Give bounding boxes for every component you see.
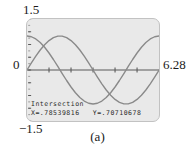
figure-caption: (a) <box>0 129 195 145</box>
calculator-screen[interactable]: Intersection X=.78539816 Y=.70710678 <box>26 18 160 122</box>
readout-coordinates: X=.78539816 Y=.70710678 <box>31 109 157 118</box>
trace-readout: Intersection X=.78539816 Y=.70710678 <box>31 100 157 118</box>
y-axis-zero-label: 0 <box>13 58 20 71</box>
x-axis-max-label: 6.28 <box>163 58 186 71</box>
figure-container: 1.5 0 6.28 −1.5 Intersection X=.78539816… <box>0 0 195 150</box>
readout-title: Intersection <box>31 100 157 109</box>
y-axis-max-label: 1.5 <box>23 3 39 16</box>
